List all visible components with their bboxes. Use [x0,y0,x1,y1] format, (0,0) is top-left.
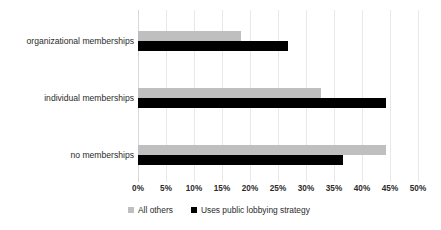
x-tick-label: 25% [270,184,286,193]
category-label: individual memberships [2,93,134,103]
bar [138,145,386,155]
x-tick-label: 50% [410,184,426,193]
plot-area [138,10,418,182]
x-tick-label: 20% [242,184,258,193]
legend-entry[interactable]: All others [128,205,173,215]
bar-group [138,31,418,51]
bar-group [138,145,418,165]
x-tick-label: 45% [382,184,398,193]
x-tick-label: 35% [326,184,342,193]
x-tick-label: 30% [298,184,314,193]
gridline-50% [418,10,419,182]
x-tick-label: 10% [186,184,202,193]
x-axis-tick-labels: 0%5%10%15%20%25%30%35%40%45%50% [138,184,418,196]
x-tick-label: 5% [160,184,172,193]
bar [138,31,241,41]
legend-entry[interactable]: Uses public lobbying strategy [191,205,310,215]
legend-label: All others [138,205,173,215]
legend-label: Uses public lobbying strategy [201,205,310,215]
category-label: organizational memberships [2,36,134,46]
category-axis-labels: organizational membershipsindividual mem… [0,10,134,182]
bar-group [138,88,418,108]
bar [138,41,288,51]
chart-legend: All othersUses public lobbying strategy [128,203,310,217]
x-tick-label: 40% [354,184,370,193]
x-tick-label: 15% [214,184,230,193]
legend-swatch-black-icon [191,207,197,213]
bar-chart: organizational membershipsindividual mem… [0,0,441,230]
x-tick-label: 0% [132,184,144,193]
bar [138,98,386,108]
category-label: no memberships [2,150,134,160]
legend-swatch-gray-icon [128,207,134,213]
bar [138,88,321,98]
bar [138,155,343,165]
